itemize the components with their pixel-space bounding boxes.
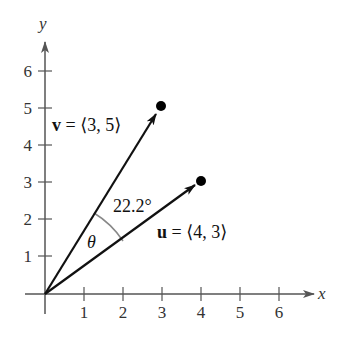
vector-diagram: x y 1 2 3 4 5 6 1 2 3 4 5 6 (0, 0, 342, 338)
y-tick-labels: 1 2 3 4 5 6 (24, 62, 33, 266)
x-tick-labels: 1 2 3 4 5 6 (80, 303, 284, 322)
y-tick-label: 1 (24, 247, 33, 266)
theta-label: θ (87, 232, 96, 252)
y-tick-label: 6 (24, 62, 33, 81)
vector-u-endpoint (196, 176, 206, 186)
x-tick-label: 5 (236, 303, 245, 322)
x-tick-label: 2 (119, 303, 128, 322)
y-tick-label: 2 (24, 210, 33, 229)
x-tick-label: 3 (158, 303, 167, 322)
y-tick-label: 4 (24, 136, 33, 155)
axes: x y (25, 14, 326, 314)
x-tick-label: 1 (80, 303, 89, 322)
vector-v-label: v = ⟨3, 5⟩ (52, 115, 121, 135)
y-axis-label: y (37, 14, 47, 33)
y-tick-label: 5 (24, 99, 33, 118)
x-axis-label: x (317, 284, 326, 303)
angle-value-label: 22.2° (113, 196, 152, 216)
x-tick-label: 4 (197, 303, 206, 322)
angle-arc (94, 213, 123, 241)
vector-v-endpoint (156, 101, 166, 111)
y-tick-label: 3 (24, 173, 33, 192)
x-tick-label: 6 (275, 303, 284, 322)
vector-u-label: u = ⟨4, 3⟩ (157, 222, 227, 242)
